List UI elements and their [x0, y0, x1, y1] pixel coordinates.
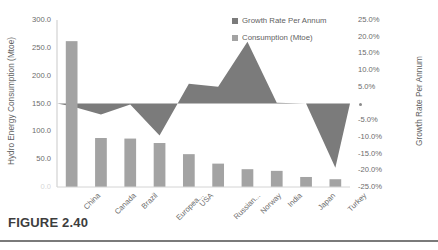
- consumption-bar: [300, 177, 312, 187]
- y-axis-left-tick-label: 200.0: [17, 71, 51, 80]
- legend-item-label: Consumption (Mtoe): [242, 33, 313, 42]
- legend-item-label: Growth Rate Per Annum: [242, 16, 327, 25]
- legend-swatch-consumption: [232, 35, 238, 41]
- y-axis-right-tick-label: -20.0%: [358, 165, 396, 174]
- consumption-bar: [242, 169, 254, 187]
- consumption-bar: [212, 164, 224, 187]
- consumption-bar: [95, 138, 107, 187]
- legend-swatch-growth: [232, 18, 238, 24]
- legend-item[interactable]: Consumption (Mtoe): [232, 31, 372, 44]
- y-axis-right-tick-label: -15.0%: [358, 149, 396, 158]
- consumption-bar: [154, 143, 166, 187]
- y-axis-left-tick-label: 50.0: [17, 154, 51, 163]
- consumption-bar: [124, 139, 136, 187]
- y-axis-right-tick-label: -10.0%: [358, 132, 396, 141]
- legend-item[interactable]: Growth Rate Per Annum: [232, 14, 372, 27]
- consumption-bar: [66, 41, 78, 187]
- caption-divider-rule: [0, 240, 438, 242]
- figure-caption-block: FIGURE 2.40: [0, 209, 438, 250]
- consumption-bar: [183, 154, 195, 187]
- y-axis-left-tick-label: 250.0: [17, 43, 51, 52]
- chart-canvas: Hydro Energy Consumption (Mtoe) Growth R…: [0, 0, 438, 207]
- chart-legend: Growth Rate Per AnnumConsumption (Mtoe): [232, 14, 372, 48]
- y-axis-right-tick-label: 5.0%: [358, 82, 396, 91]
- y-axis-right-title: Growth Rate Per Annum: [414, 36, 424, 166]
- consumption-bar: [271, 171, 283, 187]
- y-axis-left-tick-label: 150.0: [17, 99, 51, 108]
- consumption-bar: [329, 179, 341, 187]
- figure-container: Hydro Energy Consumption (Mtoe) Growth R…: [0, 0, 438, 250]
- y-axis-left-title: Hydro Energy Consumption (Mtoe): [6, 36, 16, 166]
- y-axis-right-tick-label: 10.0%: [358, 65, 396, 74]
- y-axis-right-tick-label: -25.0%: [358, 182, 396, 191]
- figure-caption-text: FIGURE 2.40: [8, 215, 88, 230]
- y-axis-left-tick-label: 300.0: [17, 15, 51, 24]
- y-axis-right-tick-label: 15.0%: [358, 48, 396, 57]
- consumption-bar-series: [66, 41, 341, 187]
- y-axis-right-tick-label: -5.0%: [358, 115, 396, 124]
- y-axis-left-tick-label: 100.0: [17, 126, 51, 135]
- y-axis-left-tick-label: 0.0: [17, 182, 51, 191]
